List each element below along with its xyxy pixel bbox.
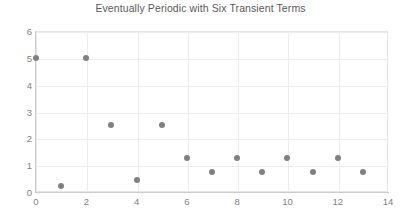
y-tick-label: 6 <box>6 26 32 37</box>
x-tick-label: 12 <box>332 196 343 207</box>
plot-area <box>36 31 388 192</box>
y-tick-label: 3 <box>6 106 32 117</box>
x-tick-label: 4 <box>134 196 139 207</box>
x-tick-label: 2 <box>84 196 89 207</box>
gridline-vertical <box>238 32 239 191</box>
x-axis-line <box>36 192 389 193</box>
data-point <box>209 169 215 175</box>
gridline-vertical <box>188 32 189 191</box>
data-point <box>33 55 39 61</box>
y-tick-label: 4 <box>6 79 32 90</box>
gridline-horizontal <box>37 59 387 60</box>
gridline-vertical <box>339 32 340 191</box>
x-tick-label: 0 <box>33 196 38 207</box>
data-point <box>234 155 240 161</box>
y-tick-label: 5 <box>6 52 32 63</box>
gridline-horizontal <box>37 32 387 33</box>
gridline-vertical <box>288 32 289 191</box>
data-point <box>134 177 140 183</box>
x-tick-label: 14 <box>383 196 394 207</box>
gridline-horizontal <box>37 86 387 87</box>
gridline-vertical <box>138 32 139 191</box>
gridline-horizontal <box>37 113 387 114</box>
data-point <box>184 155 190 161</box>
x-tick-label: 10 <box>282 196 293 207</box>
data-point <box>360 169 366 175</box>
chart-title: Eventually Periodic with Six Transient T… <box>0 2 401 14</box>
gridline-horizontal <box>37 166 387 167</box>
y-tick-label: 0 <box>6 187 32 198</box>
y-tick-label: 1 <box>6 160 32 171</box>
y-axis-tick-labels: 0123456 <box>0 0 32 219</box>
data-point <box>310 169 316 175</box>
gridline-horizontal <box>37 139 387 140</box>
data-point <box>159 122 165 128</box>
x-tick-label: 8 <box>234 196 239 207</box>
scatter-chart: Eventually Periodic with Six Transient T… <box>0 0 401 219</box>
data-point <box>335 155 341 161</box>
y-tick-label: 2 <box>6 133 32 144</box>
x-tick-label: 6 <box>184 196 189 207</box>
